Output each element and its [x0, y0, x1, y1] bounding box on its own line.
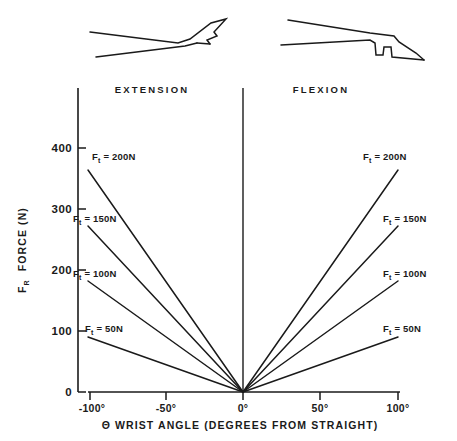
y-tick-label-200: 200: [52, 264, 72, 276]
x-tick-label-50: 50°: [312, 402, 329, 414]
x-tick-label-0: 0°: [238, 402, 249, 414]
curve-label-flexion-200N: Ft = 200N: [363, 151, 407, 164]
section-title-extension: EXTENSION: [115, 84, 190, 95]
curve-label-flexion-100N: Ft = 100N: [383, 268, 427, 281]
y-tick-label-300: 300: [52, 203, 72, 215]
data-line-flexion-150N[interactable]: [243, 226, 398, 392]
y-tick-label-100: 100: [52, 325, 72, 337]
curve-label-extension-150N: Ft = 150N: [73, 213, 117, 226]
x-axis-title: Θ WRIST ANGLE (DEGREES FROM STRAIGHT): [102, 419, 379, 431]
y-axis-tick-labels: 0 100 200 300 400: [52, 142, 72, 398]
flexed-wrist-hand-outline: [281, 20, 424, 60]
y-axis-title-main: FORCE (N): [16, 207, 28, 271]
svg-text:FR FORCE (N): FR FORCE (N): [16, 207, 30, 293]
curve-label-extension-200N: Ft = 200N: [92, 151, 136, 164]
section-title-flexion: FLEXION: [293, 84, 350, 95]
data-line-flexion-200N[interactable]: [243, 170, 398, 392]
x-tick-label-100: 100°: [387, 402, 410, 414]
data-lines-flexion: [243, 170, 398, 392]
data-line-extension-50N[interactable]: [88, 337, 243, 392]
extended-wrist-hand-outline: [90, 19, 226, 57]
curve-labels-flexion: Ft = 200N Ft = 150N Ft = 100N Ft = 50N: [363, 151, 427, 336]
y-axis-title-prefix: F: [16, 285, 28, 293]
x-tick-label-minus100: -100°: [79, 402, 106, 414]
curve-label-extension-50N: Ft = 50N: [85, 323, 123, 336]
wrist-force-figure: EXTENSION FLEXION 0 100 200 300 400: [0, 0, 457, 441]
x-axis-tick-labels: -100° -50° 0° 50° 100°: [79, 402, 410, 414]
y-tick-label-0: 0: [65, 386, 72, 398]
x-axis-ticks: [90, 392, 398, 400]
data-line-extension-200N[interactable]: [88, 170, 243, 392]
y-tick-label-400: 400: [52, 142, 72, 154]
data-line-flexion-100N[interactable]: [243, 281, 398, 392]
data-lines-extension: [88, 170, 243, 392]
data-line-extension-150N[interactable]: [88, 226, 243, 392]
data-line-flexion-50N[interactable]: [243, 337, 398, 392]
plot-canvas: EXTENSION FLEXION 0 100 200 300 400: [0, 0, 457, 441]
curve-label-flexion-50N: Ft = 50N: [383, 323, 421, 336]
x-tick-label-minus50: -50°: [156, 402, 177, 414]
data-line-extension-100N[interactable]: [88, 281, 243, 392]
y-axis-title: FR FORCE (N): [16, 207, 30, 293]
curve-label-flexion-150N: Ft = 150N: [383, 213, 427, 226]
